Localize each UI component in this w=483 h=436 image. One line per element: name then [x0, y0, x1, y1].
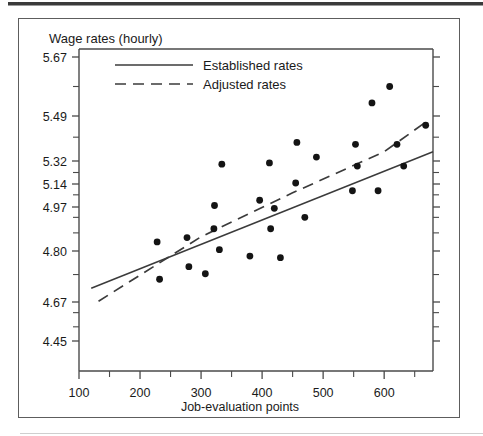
y-axis-minor-ticks [73, 87, 439, 327]
data-point [293, 139, 300, 146]
trend-line-solid [91, 152, 433, 289]
trend-line-dashed [99, 121, 427, 301]
x-tick-label: 600 [374, 386, 395, 400]
y-tick-label: 5.67 [43, 51, 67, 65]
data-point [154, 239, 161, 246]
y-tick-label: 4.97 [43, 201, 67, 215]
data-point [386, 83, 393, 90]
data-point [400, 163, 407, 170]
data-point [211, 202, 218, 209]
data-point [352, 141, 359, 148]
data-point [202, 270, 209, 277]
data-point [354, 163, 361, 170]
trend-lines [91, 121, 433, 301]
y-tick-label: 5.32 [43, 155, 67, 169]
data-point [184, 234, 191, 241]
legend-label: Established rates [203, 58, 303, 73]
chart-legend: Established ratesAdjusted rates [115, 58, 303, 92]
data-point [375, 187, 382, 194]
wage-rates-scatter-chart: Wage rates (hourly) 4.454.674.804.975.14… [19, 19, 461, 419]
x-axis-tick-labels: 100200300400500600 [69, 386, 395, 400]
data-point [218, 161, 225, 168]
y-tick-label: 5.14 [43, 178, 67, 192]
figure-frame: Wage rates (hourly) 4.454.674.804.975.14… [18, 18, 460, 418]
legend-label: Adjusted rates [203, 77, 287, 92]
data-point [256, 197, 263, 204]
y-tick-label: 4.80 [43, 245, 67, 259]
data-point [277, 254, 284, 261]
y-tick-label: 5.49 [43, 110, 67, 124]
page-bottom-rule [20, 433, 483, 434]
data-point [313, 154, 320, 161]
x-tick-label: 400 [252, 386, 273, 400]
y-tick-label: 4.67 [43, 296, 67, 310]
y-axis-ticks [72, 57, 79, 341]
data-point [210, 225, 217, 232]
data-point [216, 246, 223, 253]
x-tick-label: 300 [191, 386, 212, 400]
data-point [292, 180, 299, 187]
data-point [301, 214, 308, 221]
scatter-points [154, 83, 429, 283]
data-point [369, 99, 376, 106]
data-point [185, 263, 192, 270]
y-axis-tick-labels: 4.454.674.804.975.145.325.495.67 [43, 51, 67, 349]
y-axis-right-ticks [433, 57, 440, 341]
data-point [156, 276, 163, 283]
data-point [266, 160, 273, 167]
screenshot-page: Wage rates (hourly) 4.454.674.804.975.14… [0, 0, 483, 436]
data-point [422, 122, 429, 129]
data-point [394, 141, 401, 148]
x-tick-label: 200 [130, 386, 151, 400]
data-point [247, 253, 254, 260]
x-axis-title: Job-evaluation points [181, 400, 299, 414]
page-top-rule-shadow [8, 5, 483, 6]
x-tick-label: 100 [69, 386, 90, 400]
x-tick-label: 500 [313, 386, 334, 400]
data-point [271, 205, 278, 212]
chart-title: Wage rates (hourly) [49, 31, 163, 46]
data-point [267, 225, 274, 232]
y-tick-label: 4.45 [43, 335, 67, 349]
data-point [349, 187, 356, 194]
